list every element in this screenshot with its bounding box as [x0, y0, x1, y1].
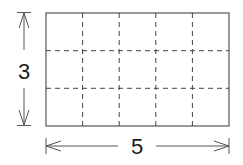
- outer-rectangle: [46, 13, 229, 126]
- vertical-grid-lines: [83, 13, 193, 126]
- grid-diagram: 3 5: [0, 0, 243, 165]
- height-label: 3: [18, 59, 30, 84]
- horizontal-grid-lines: [46, 51, 229, 89]
- width-label: 5: [131, 134, 143, 159]
